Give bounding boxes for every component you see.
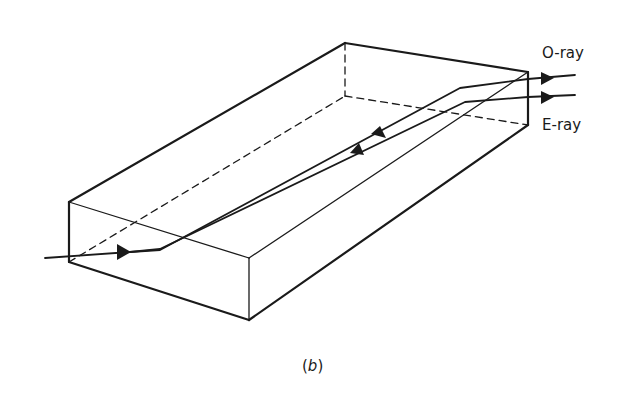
caption-letter: b bbox=[308, 357, 318, 375]
e-ray-exit-arrow-icon bbox=[541, 91, 554, 104]
caption-close: ) bbox=[317, 357, 323, 375]
figure-caption: (b) bbox=[302, 357, 323, 375]
incident-arrow-icon bbox=[117, 244, 131, 260]
edge-top-left bbox=[69, 43, 345, 202]
birefringent-crystal-diagram bbox=[0, 0, 619, 415]
edge-bottom-right bbox=[249, 125, 528, 320]
o-ray-exit-arrow-icon bbox=[541, 72, 554, 85]
edge-bottom-front bbox=[69, 262, 249, 320]
e-ray-inner-arrow-icon bbox=[350, 143, 364, 155]
o-ray-inner-arrow-icon bbox=[371, 126, 386, 138]
o-ray-label: O-ray bbox=[542, 44, 584, 62]
e-ray-label: E-ray bbox=[542, 116, 581, 134]
e-ray-path bbox=[130, 95, 575, 252]
edge-top-back bbox=[345, 43, 528, 72]
o-ray-path bbox=[130, 75, 575, 252]
